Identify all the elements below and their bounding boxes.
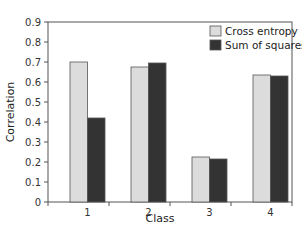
bar-chart: 00.10.20.30.40.50.60.70.80.9 1234 Class … [0, 0, 302, 237]
x-tick-label: 4 [267, 207, 273, 218]
y-tick-label: 0.1 [25, 177, 41, 188]
y-tick-label: 0.7 [25, 57, 41, 68]
y-tick-label: 0.2 [25, 157, 41, 168]
bar-sum-of-squares [271, 76, 289, 202]
y-tick-label: 0.9 [25, 17, 41, 28]
legend-label: Sum of squares [225, 39, 302, 51]
y-tick-label: 0 [35, 197, 41, 208]
y-tick-label: 0.8 [25, 37, 41, 48]
bar-cross-entropy [192, 157, 210, 202]
y-tick-label: 0.4 [25, 117, 41, 128]
bar-cross-entropy [253, 75, 271, 202]
bars [70, 62, 288, 202]
bar-sum-of-squares [88, 118, 106, 202]
y-tick-label: 0.3 [25, 137, 41, 148]
legend-swatch [210, 26, 221, 36]
bar-cross-entropy [131, 67, 149, 202]
y-axis: 00.10.20.30.40.50.60.70.80.9 [25, 17, 48, 208]
y-tick-label: 0.5 [25, 97, 41, 108]
y-axis-title: Correlation [4, 82, 17, 143]
x-axis-title: Class [146, 212, 175, 225]
legend: Cross entropySum of squares [210, 25, 302, 51]
legend-label: Cross entropy [225, 25, 298, 37]
bar-sum-of-squares [149, 63, 167, 202]
y-tick-label: 0.6 [25, 77, 41, 88]
legend-swatch [210, 40, 221, 50]
bar-sum-of-squares [210, 159, 228, 202]
x-tick-label: 1 [84, 207, 90, 218]
bar-cross-entropy [70, 62, 88, 202]
x-tick-label: 3 [206, 207, 212, 218]
